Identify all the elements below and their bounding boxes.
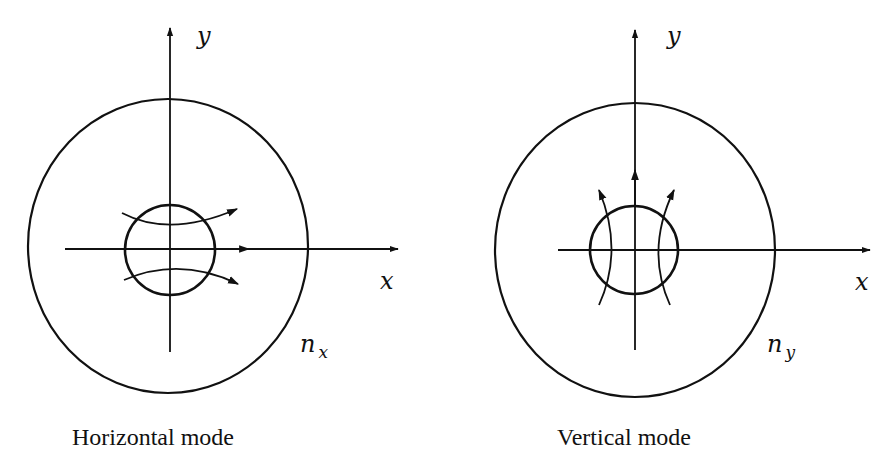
figure-canvas: y x nx Horizontal mode y x ny Vertical m… <box>0 0 889 473</box>
x-axis-label: x <box>855 268 869 296</box>
panel-horizontal-mode: y x nx Horizontal mode <box>28 22 398 450</box>
index-label-subscript: x <box>318 342 328 362</box>
panel-vertical-mode: y x ny Vertical mode <box>495 22 870 450</box>
field-line-right <box>658 190 674 305</box>
index-label-subscript: y <box>784 342 795 362</box>
outer-cladding-circle <box>28 99 308 393</box>
field-lines-horizontal <box>122 209 249 284</box>
y-axis-label: y <box>196 22 211 50</box>
index-label-main: n <box>300 330 315 358</box>
caption-vertical-mode: Vertical mode <box>557 424 691 450</box>
index-label-ny: ny <box>767 330 795 362</box>
field-line-bottom <box>124 269 238 284</box>
index-label-nx: nx <box>300 330 328 362</box>
y-axis-label: y <box>666 22 681 50</box>
index-label-main: n <box>767 330 782 358</box>
caption-horizontal-mode: Horizontal mode <box>72 424 234 450</box>
x-axis-label: x <box>380 267 394 295</box>
field-lines-vertical <box>599 170 674 305</box>
